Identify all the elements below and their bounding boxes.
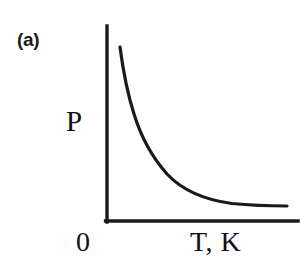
decay-curve (120, 47, 287, 206)
figure-panel: (a) P 0 T, K (0, 0, 300, 261)
x-axis-label: T, K (190, 226, 241, 258)
y-axis-label: P (66, 105, 82, 138)
plot-area (0, 0, 300, 261)
origin-label: 0 (76, 226, 90, 258)
panel-label: (a) (17, 29, 39, 51)
